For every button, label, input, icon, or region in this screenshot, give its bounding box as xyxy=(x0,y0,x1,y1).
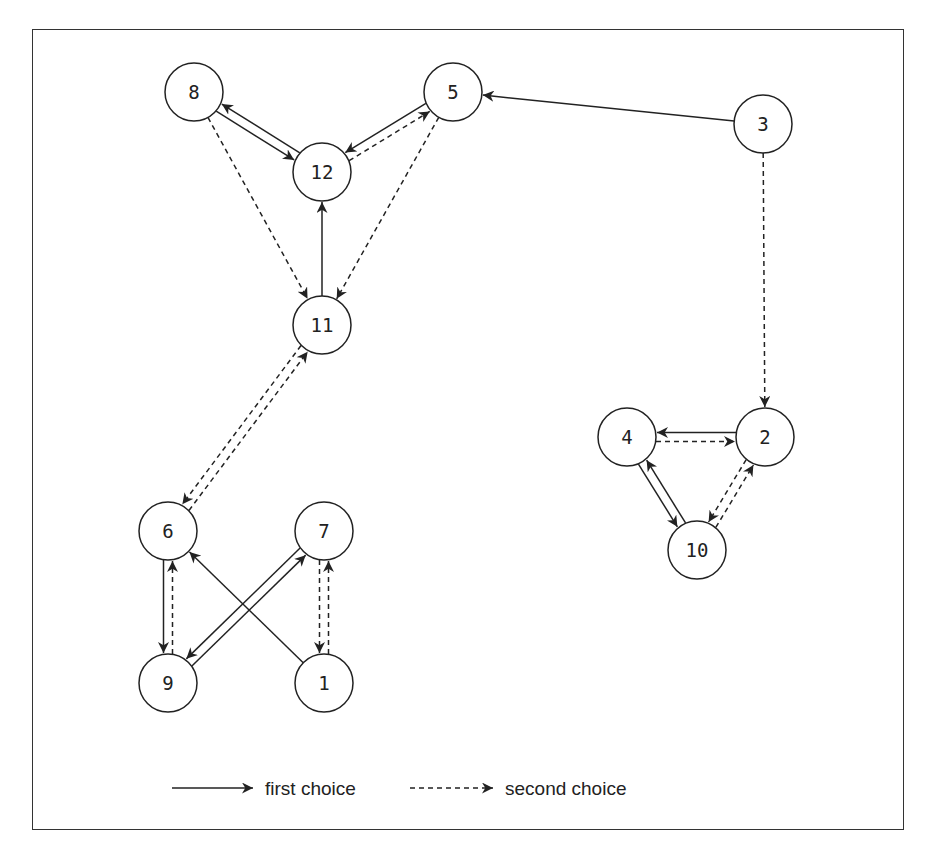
node-3: 3 xyxy=(734,95,792,153)
edge-1-to-6-first-choice xyxy=(189,552,303,663)
edge-6-to-11-second-choice xyxy=(189,352,308,511)
node-label: 6 xyxy=(162,520,173,542)
node-label: 3 xyxy=(757,113,768,135)
node-label: 4 xyxy=(621,426,632,448)
node-9: 9 xyxy=(139,654,197,712)
edge-8-to-11-second-choice xyxy=(208,117,308,298)
node-label: 12 xyxy=(311,161,334,183)
graph-canvas: 853121142106791 first choice second choi… xyxy=(0,0,928,860)
legend-first-choice-label: first choice xyxy=(265,778,356,799)
node-4: 4 xyxy=(598,408,656,466)
edge-10-to-4-first-choice xyxy=(647,460,686,523)
legend: first choice second choice xyxy=(172,778,626,799)
node-10: 10 xyxy=(668,521,726,579)
edge-5-to-11-second-choice xyxy=(337,117,439,299)
node-label: 11 xyxy=(311,314,334,336)
edge-5-to-12-first-choice xyxy=(345,103,426,152)
node-label: 9 xyxy=(162,672,173,694)
edge-3-to-5-first-choice xyxy=(483,95,734,121)
node-5: 5 xyxy=(424,63,482,121)
node-7: 7 xyxy=(295,502,353,560)
edge-10-to-2-second-choice xyxy=(716,465,754,527)
node-label: 2 xyxy=(759,426,770,448)
edges-layer xyxy=(164,95,765,666)
node-label: 10 xyxy=(686,539,709,561)
node-2: 2 xyxy=(736,408,794,466)
node-label: 5 xyxy=(447,81,458,103)
edge-4-to-10-first-choice xyxy=(638,464,677,527)
node-label: 8 xyxy=(188,81,199,103)
node-1: 1 xyxy=(295,654,353,712)
legend-second-choice-label: second choice xyxy=(505,778,626,799)
edge-2-to-10-second-choice xyxy=(709,460,747,522)
node-label: 1 xyxy=(318,672,329,694)
nodes-layer: 853121142106791 xyxy=(139,63,794,712)
edge-12-to-8-first-choice xyxy=(222,104,300,153)
node-label: 7 xyxy=(318,520,329,542)
edge-12-to-5-second-choice xyxy=(349,111,430,160)
node-6: 6 xyxy=(139,502,197,560)
edge-11-to-6-second-choice xyxy=(182,346,301,505)
node-12: 12 xyxy=(293,143,351,201)
edge-3-to-2-second-choice xyxy=(763,153,765,407)
node-8: 8 xyxy=(165,63,223,121)
node-11: 11 xyxy=(293,296,351,354)
